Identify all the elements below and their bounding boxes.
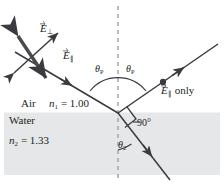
label-e-parallel: E ∥: [63, 50, 74, 63]
n1-value: = 1.00: [61, 97, 89, 109]
theta-2-subscript: 2: [123, 144, 126, 151]
e-parallel-symbol: E: [63, 49, 70, 61]
e-parallel-only-text: only: [175, 84, 195, 96]
label-theta-p-reflected: θP: [126, 64, 134, 75]
e-perpendicular-subscript: ⊥: [47, 28, 53, 35]
label-medium-water: Water: [9, 115, 35, 126]
incident-ray-direction-arrow: [60, 79, 72, 86]
label-theta-p-incident: θP: [95, 64, 103, 75]
e-parallel-subscript: ∥: [70, 55, 74, 62]
e-perpendicular-symbol: E: [40, 22, 47, 34]
label-index-n1: n1= 1.00: [49, 98, 89, 111]
n2-value: = 1.33: [21, 134, 49, 146]
theta-p-incident-subscript: P: [100, 68, 103, 75]
reflected-ray: [118, 44, 218, 113]
reflected-ray-direction-arrow: [172, 67, 184, 75]
physics-diagram-brewster-angle: E ⊥ E ∥ θP θP E ∥only A: [0, 0, 224, 186]
e-parallel-only-subscript: ∥: [168, 90, 172, 97]
n1-subscript: 1: [55, 103, 58, 110]
label-theta-2: θ2: [118, 140, 126, 151]
label-index-n2: n2= 1.33: [9, 135, 49, 148]
label-right-angle: 90°: [137, 118, 151, 128]
theta-p-reflected-subscript: P: [131, 68, 134, 75]
label-medium-air: Air: [21, 98, 36, 109]
n2-subscript: 2: [15, 140, 18, 147]
label-e-perpendicular: E ⊥: [40, 23, 53, 36]
e-parallel-only-symbol: E: [161, 84, 168, 96]
label-e-parallel-only: E ∥only: [161, 85, 194, 98]
